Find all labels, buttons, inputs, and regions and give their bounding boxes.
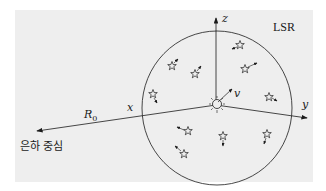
lsr-diagram: LSR z y x v R0 은하 중심 xyxy=(0,0,326,191)
galactic-center-label: 은하 중심 xyxy=(20,137,64,153)
velocity-label: v xyxy=(234,87,240,100)
distance-label: R0 xyxy=(84,108,97,123)
background-panel xyxy=(15,10,313,182)
z-axis-label: z xyxy=(222,12,228,25)
distance-subscript: 0 xyxy=(92,114,97,123)
lsr-label: LSR xyxy=(273,20,295,35)
y-axis-label: y xyxy=(302,98,308,111)
x-axis-label: x xyxy=(127,101,133,114)
